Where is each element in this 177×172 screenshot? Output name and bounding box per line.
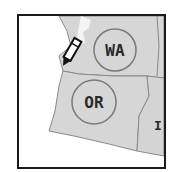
- state-map: WA OR I: [19, 16, 164, 167]
- id-label: I: [154, 118, 162, 133]
- or-label: OR: [84, 93, 104, 112]
- wa-label: WA: [105, 41, 125, 60]
- map-frame: WA OR I: [17, 14, 166, 169]
